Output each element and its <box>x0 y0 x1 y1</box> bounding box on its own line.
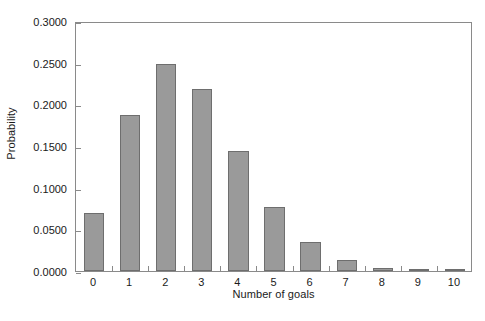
bar <box>156 64 176 272</box>
x-tick-mark <box>437 266 438 271</box>
x-tick-mark <box>220 266 221 271</box>
bar <box>445 269 465 271</box>
bar <box>192 89 212 272</box>
y-tick-label: 0.2500 <box>7 58 67 70</box>
y-tick-label: 0.0500 <box>7 224 67 236</box>
y-tick-mark <box>76 23 81 24</box>
y-tick-mark <box>76 148 81 149</box>
plot-area <box>75 22 472 272</box>
y-tick-mark <box>76 106 81 107</box>
x-tick-label: 4 <box>217 276 257 288</box>
x-tick-label: 10 <box>434 276 474 288</box>
y-tick-label: 0.1500 <box>7 141 67 153</box>
y-tick-label: 0.1000 <box>7 183 67 195</box>
x-tick-mark <box>184 266 185 271</box>
x-tick-mark <box>365 266 366 271</box>
x-tick-mark <box>401 266 402 271</box>
y-tick-label: 0.2000 <box>7 99 67 111</box>
x-tick-label: 8 <box>362 276 402 288</box>
x-tick-label: 0 <box>73 276 113 288</box>
x-tick-mark <box>293 266 294 271</box>
x-tick-mark <box>148 266 149 271</box>
y-tick-label: 0.3000 <box>7 16 67 28</box>
y-tick-mark <box>76 231 81 232</box>
x-tick-label: 5 <box>254 276 294 288</box>
x-tick-mark <box>329 266 330 271</box>
bar <box>120 115 140 271</box>
x-tick-label: 1 <box>109 276 149 288</box>
x-tick-mark <box>112 266 113 271</box>
x-tick-mark <box>256 266 257 271</box>
x-tick-label: 3 <box>181 276 221 288</box>
x-tick-label: 7 <box>326 276 366 288</box>
x-axis-title: Number of goals <box>75 288 472 300</box>
bar <box>264 207 284 271</box>
bar-chart-figure: Probability 0.00000.05000.10000.15000.20… <box>0 0 485 321</box>
x-tick-label: 9 <box>398 276 438 288</box>
y-tick-mark <box>76 65 81 66</box>
x-tick-label: 2 <box>145 276 185 288</box>
y-tick-mark <box>76 273 81 274</box>
bar <box>373 268 393 271</box>
y-tick-mark <box>76 190 81 191</box>
bar <box>337 260 357 271</box>
bar <box>228 151 248 272</box>
x-tick-label: 6 <box>290 276 330 288</box>
bar <box>409 269 429 271</box>
bar <box>300 242 320 271</box>
bar <box>84 213 104 271</box>
y-tick-label: 0.0000 <box>7 266 67 278</box>
